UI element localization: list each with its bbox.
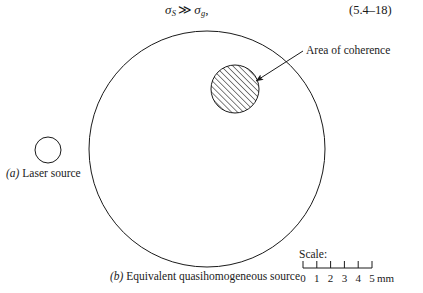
caption-b-text: Equivalent quasihomogeneous source (126, 270, 300, 282)
figure-container: σS≫σg, (5.4–18) (0, 0, 423, 293)
caption-b-letter: (b) (110, 270, 123, 282)
scale-label: Scale: (299, 248, 327, 260)
coherence-area-label: Area of coherence (306, 44, 390, 56)
caption-quasihomogeneous-source: (b) Equivalent quasihomogeneous source (110, 270, 300, 282)
caption-laser-source: (a) Laser source (6, 167, 81, 179)
caption-a-text: Laser source (22, 167, 80, 179)
scale-bar (303, 261, 372, 268)
scale-unit-label: mm (377, 272, 394, 284)
caption-a-letter: (a) (6, 167, 19, 179)
coherence-area-circle (211, 65, 259, 113)
quasihomogeneous-source-circle (89, 31, 325, 267)
laser-source-circle (35, 137, 61, 163)
